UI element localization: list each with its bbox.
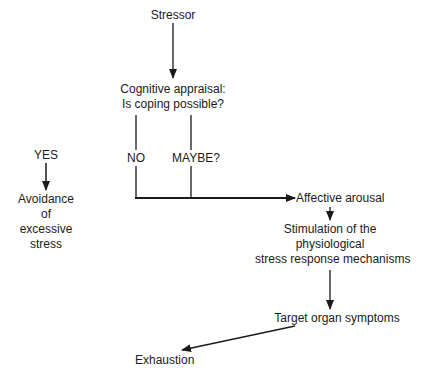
arrow-target-to-exhaustion	[182, 326, 295, 350]
maybe-label: MAYBE?	[172, 151, 220, 165]
stress-flow-diagram: Stressor Cognitive appraisal: Is coping …	[0, 0, 437, 381]
appraisal-line1: Cognitive appraisal:	[113, 82, 233, 97]
yes-label: YES	[34, 148, 58, 162]
node-maybe: MAYBE?	[166, 151, 226, 166]
stimulation-line2: physiological	[255, 237, 405, 252]
avoidance-line4: stress	[11, 237, 81, 252]
target-label: Target organ symptoms	[274, 311, 399, 325]
avoidance-line2: of	[11, 207, 81, 222]
avoidance-line1: Avoidance	[11, 192, 81, 207]
node-yes: YES	[26, 148, 66, 163]
stressor-label: Stressor	[151, 8, 196, 22]
node-avoidance: Avoidance of excessive stress	[11, 192, 81, 252]
no-label: NO	[127, 151, 145, 165]
exhaustion-label: Exhaustion	[135, 353, 194, 367]
node-cognitive-appraisal: Cognitive appraisal: Is coping possible?	[113, 82, 233, 112]
node-no: NO	[121, 151, 151, 166]
node-stressor: Stressor	[143, 8, 203, 23]
avoidance-line3: excessive	[11, 222, 81, 237]
arousal-label: Affective arousal	[296, 191, 385, 205]
node-target-organ-symptoms: Target organ symptoms	[272, 311, 402, 326]
node-stimulation: Stimulation of the physiological stress …	[255, 222, 405, 267]
appraisal-line2: Is coping possible?	[113, 97, 233, 112]
node-exhaustion: Exhaustion	[135, 353, 205, 368]
stimulation-line1: Stimulation of the	[255, 222, 405, 237]
stimulation-line3: stress response mechanisms	[255, 252, 405, 267]
node-affective-arousal: Affective arousal	[296, 191, 396, 206]
